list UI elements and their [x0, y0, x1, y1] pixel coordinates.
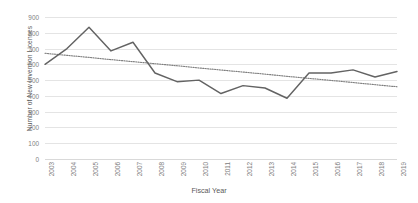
x-axis-tick-label: 2013 [268, 162, 275, 176]
trendline-path [45, 53, 397, 86]
x-axis-tick-label: 2003 [48, 162, 55, 176]
y-axis-tick-label: 300 [15, 108, 39, 115]
x-axis-tick-label: 2017 [356, 162, 363, 176]
x-axis-tick-label: 2015 [312, 162, 319, 176]
data-series-path [45, 27, 397, 98]
y-axis-tick-label: 400 [15, 92, 39, 99]
x-axis-tick-label: 2005 [92, 162, 99, 176]
x-axis-tick-label: 2009 [180, 162, 187, 176]
x-axis-title: Fiscal Year [0, 186, 418, 195]
x-axis-tick-label: 2006 [114, 162, 121, 176]
x-axis-tick-label: 2016 [334, 162, 341, 176]
y-axis-tick-label: 100 [15, 140, 39, 147]
y-axis-tick-label: 700 [15, 45, 39, 52]
y-axis-tick-label: 500 [15, 77, 39, 84]
y-axis-tick-label: 600 [15, 61, 39, 68]
x-axis-tick-label: 2004 [70, 162, 77, 176]
y-axis-tick-label: 0 [15, 156, 39, 163]
x-axis-tick-label: 2012 [246, 162, 253, 176]
series-layer [45, 17, 397, 159]
x-axis-tick-label: 2018 [378, 162, 385, 176]
y-axis-tick-label: 900 [15, 14, 39, 21]
x-axis-tick-label: 2007 [136, 162, 143, 176]
x-axis-tick-label: 2008 [158, 162, 165, 176]
y-axis-tick-label: 800 [15, 29, 39, 36]
x-axis-tick-label: 2011 [224, 162, 231, 176]
x-axis-tick-label: 2019 [400, 162, 407, 176]
y-axis-tick-label: 200 [15, 124, 39, 131]
x-axis-tick-label: 2014 [290, 162, 297, 176]
line-chart: Number of New Invention Licenses Fiscal … [0, 0, 418, 203]
gridline [45, 159, 397, 160]
x-axis-tick-label: 2010 [202, 162, 209, 176]
plot-area [45, 17, 397, 159]
